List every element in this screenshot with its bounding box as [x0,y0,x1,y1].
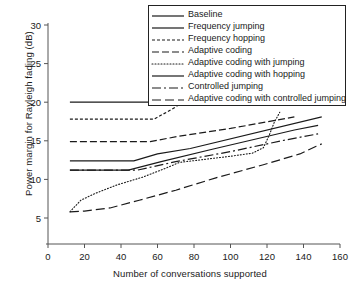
x-tick-label: 20 [79,251,90,262]
x-tick-label: 60 [152,251,163,262]
legend-line-sample [151,68,185,80]
y-tick-label: 5 [36,213,41,224]
data-series-group [70,102,322,212]
legend-line-sample [151,32,185,44]
figure: 30252015105020406080100120140160 Power m… [0,0,351,292]
legend-item[interactable]: Frequency hopping [151,32,345,44]
series-line [70,134,318,170]
x-axis-title: Number of conversations supported [40,268,340,279]
legend-item-label: Baseline [188,8,223,20]
y-axis-title: Power margin for Rayleigh fading (dB) [23,9,34,219]
legend-line-sample [151,8,185,20]
legend-item-label: Adaptive coding [188,44,252,56]
legend-item[interactable]: Adaptive coding with controlled jumping [151,92,345,104]
legend-item-label: Adaptive coding with hopping [188,68,305,80]
x-tick-label: 160 [332,251,348,262]
legend-item-label: Controlled jumping [188,80,263,92]
legend-item[interactable]: Baseline [151,8,345,20]
x-tick-label: 140 [296,251,312,262]
legend-item[interactable]: Adaptive coding with hopping [151,68,345,80]
legend: BaselineFrequency jumpingFrequency hoppi… [148,5,346,106]
legend-line-sample [151,92,185,104]
series-line [70,144,322,212]
legend-item-label: Adaptive coding with jumping [188,56,305,68]
legend-line-sample [151,44,185,56]
legend-item[interactable]: Adaptive coding [151,44,345,56]
legend-item-label: Frequency hopping [188,32,265,44]
legend-line-sample [151,56,185,68]
legend-item[interactable]: Adaptive coding with jumping [151,56,345,68]
legend-item[interactable]: Controlled jumping [151,80,345,92]
legend-line-sample [151,20,185,32]
x-tick-label: 100 [223,251,239,262]
legend-line-sample [151,80,185,92]
legend-item[interactable]: Frequency jumping [151,20,345,32]
legend-item-label: Adaptive coding with controlled jumping [188,92,346,104]
x-tick-label: 40 [116,251,127,262]
series-line [70,117,322,161]
x-tick-label: 120 [259,251,275,262]
x-tick-label: 80 [189,251,200,262]
legend-item-label: Frequency jumping [188,20,265,32]
x-tick-label: 0 [45,251,50,262]
